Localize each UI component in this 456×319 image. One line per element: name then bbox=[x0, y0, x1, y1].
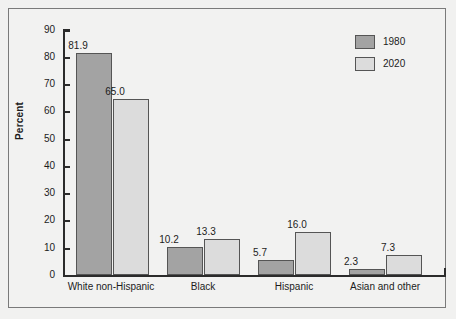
bar-asian-and-other-2020[interactable] bbox=[386, 255, 422, 275]
x-label-white-non-hispanic: White non-Hispanic bbox=[66, 281, 156, 292]
y-tick-label-60: 60 bbox=[33, 106, 55, 116]
bar-hispanic-2020[interactable] bbox=[295, 232, 331, 275]
bar-value-white-non-hispanic-2020: 65.0 bbox=[95, 86, 135, 97]
y-tick-label-0: 0 bbox=[33, 270, 55, 280]
chart-figure: Percent 90 80 70 60 50 40 30 20 10 0 81.… bbox=[0, 0, 456, 319]
legend-label-2020: 2020 bbox=[383, 58, 405, 69]
legend-swatch-2020-icon bbox=[355, 57, 375, 71]
x-label-asian-and-other: Asian and other bbox=[338, 281, 432, 292]
y-axis-title: Percent bbox=[14, 102, 25, 140]
legend-swatch-1980-icon bbox=[355, 35, 375, 49]
bar-asian-and-other-1980[interactable] bbox=[349, 269, 385, 275]
x-axis-line bbox=[63, 275, 446, 277]
bar-value-black-1980: 10.2 bbox=[149, 234, 189, 245]
bar-value-white-non-hispanic-1980: 81.9 bbox=[58, 40, 98, 51]
chart-legend: 1980 2020 bbox=[355, 33, 405, 77]
bar-black-2020[interactable] bbox=[204, 239, 240, 275]
bar-white-non-hispanic-2020[interactable] bbox=[113, 99, 149, 275]
bar-value-hispanic-2020: 16.0 bbox=[277, 219, 317, 230]
legend-label-1980: 1980 bbox=[383, 36, 405, 47]
legend-item-2020[interactable]: 2020 bbox=[355, 55, 405, 72]
y-tick-label-40: 40 bbox=[33, 161, 55, 171]
y-tick-label-80: 80 bbox=[33, 52, 55, 62]
bar-hispanic-1980[interactable] bbox=[258, 260, 294, 275]
y-tick-label-30: 30 bbox=[33, 188, 55, 198]
x-label-hispanic: Hispanic bbox=[251, 281, 337, 292]
x-label-black: Black bbox=[160, 281, 246, 292]
y-tick-label-70: 70 bbox=[33, 79, 55, 89]
legend-item-1980[interactable]: 1980 bbox=[355, 33, 405, 50]
bar-value-asian-and-other-1980: 2.3 bbox=[331, 256, 371, 267]
bar-value-black-2020: 13.3 bbox=[186, 226, 226, 237]
y-tick-label-50: 50 bbox=[33, 134, 55, 144]
bar-black-1980[interactable] bbox=[167, 247, 203, 275]
y-tick-label-10: 10 bbox=[33, 243, 55, 253]
bar-value-asian-and-other-2020: 7.3 bbox=[368, 242, 408, 253]
y-tick-label-90: 90 bbox=[33, 25, 55, 35]
y-tick-label-20: 20 bbox=[33, 215, 55, 225]
bar-value-hispanic-1980: 5.7 bbox=[240, 247, 280, 258]
